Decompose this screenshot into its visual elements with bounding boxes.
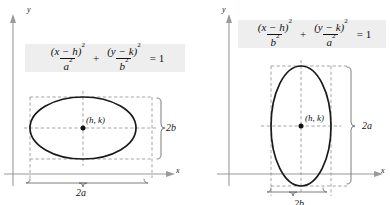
x-axis-label-right: x: [381, 167, 385, 175]
figure-root: (x − h)2 a2 + (y − k)2 b2 = 1 y x (h, k)…: [0, 0, 390, 205]
fraction-term1-right: (x − h)2 b2: [255, 21, 295, 47]
term2-numerator-exponent-left: 2: [137, 41, 141, 49]
equation-horizontal-ellipse: (x − h)2 a2 + (y − k)2 b2 = 1: [25, 44, 185, 72]
measure-label-2a-vertical: 2a: [362, 121, 372, 131]
equation-rhs-right: = 1: [357, 29, 371, 40]
center-guides-left: [24, 91, 158, 166]
term1-denominator-exponent-right: 2: [276, 32, 280, 40]
bracket-2b: [157, 98, 165, 159]
center-point-left: [81, 126, 86, 131]
term1-numerator-left: (x − h)2: [48, 45, 88, 58]
equation-text-left: (x − h)2 a2 + (y − k)2 b2 = 1: [46, 45, 164, 71]
measure-label-2a: 2a: [76, 188, 86, 198]
equation-operator-right: +: [300, 29, 306, 40]
y-axis-label-left: y: [27, 6, 31, 14]
left-panel-graphic: [0, 0, 195, 205]
center-label-right: (h, k): [305, 114, 324, 123]
term2-numerator-left: (y − k)2: [104, 45, 144, 58]
fraction-term1-left: (x − h)2 a2: [48, 45, 88, 71]
term1-denominator-right: b2: [267, 34, 282, 48]
term1-numerator-exponent-right: 2: [288, 17, 292, 25]
bracket-2a: [26, 179, 148, 187]
equation-rhs-left: = 1: [150, 53, 164, 64]
y-axis-right: [226, 14, 232, 186]
y-axis-left: [10, 14, 16, 186]
term1-numerator-exponent-left: 2: [81, 41, 85, 49]
center-point-right: [299, 124, 304, 129]
equation-vertical-ellipse: (x − h)2 b2 + (y − k)2 a2 = 1: [238, 20, 386, 48]
term1-denominator-exponent-left: 2: [69, 56, 73, 64]
x-axis-label-left: x: [176, 167, 180, 175]
term2-denominator-right: a2: [323, 34, 338, 48]
term2-denominator-exponent-right: 2: [332, 32, 336, 40]
equation-operator-left: +: [93, 53, 99, 64]
bracket-2b-horizontal: [267, 188, 327, 196]
equation-text-right: (x − h)2 b2 + (y − k)2 a2 = 1: [253, 21, 371, 47]
measure-label-2b-horizontal: 2b: [294, 199, 304, 205]
bracket-2a-vertical: [347, 67, 355, 184]
fraction-term2-right: (y − k)2 a2: [311, 21, 351, 47]
center-label-left: (h, k): [86, 116, 105, 125]
term2-numerator-right: (y − k)2: [311, 21, 351, 34]
term2-denominator-exponent-left: 2: [125, 56, 129, 64]
bounding-box-right: [271, 66, 347, 196]
term2-denominator-left: b2: [116, 58, 131, 72]
term1-numerator-right: (x − h)2: [255, 21, 295, 34]
x-axis-right: [217, 171, 383, 177]
measure-label-2b: 2b: [166, 123, 176, 133]
term2-numerator-exponent-right: 2: [344, 17, 348, 25]
panel-horizontal-ellipse: (x − h)2 a2 + (y − k)2 b2 = 1 y x (h, k)…: [0, 0, 195, 205]
panel-vertical-ellipse: (x − h)2 b2 + (y − k)2 a2 = 1 y x (h, k)…: [195, 0, 390, 205]
y-axis-label-right: y: [222, 6, 226, 14]
fraction-term2-left: (y − k)2 b2: [104, 45, 144, 71]
term1-denominator-left: a2: [60, 58, 75, 72]
